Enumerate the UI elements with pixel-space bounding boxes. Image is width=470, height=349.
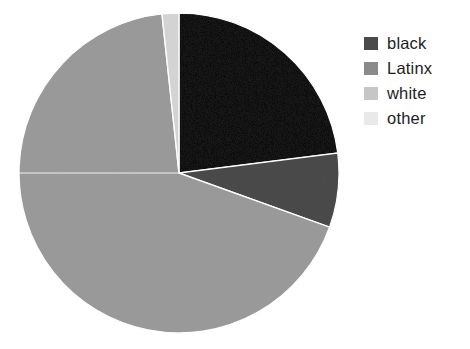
legend-swatch-black [364, 37, 378, 50]
legend-item-black[interactable]: black [364, 31, 468, 56]
legend-label-black: black [387, 35, 427, 52]
legend-swatch-other [364, 112, 378, 125]
legend-item-other[interactable]: other [364, 106, 468, 131]
legend-item-white[interactable]: white [364, 81, 468, 106]
chart-legend: black Latinx white other [364, 31, 468, 131]
pie-chart-svg [0, 0, 352, 349]
legend-label-other: other [387, 110, 426, 127]
pie-chart-figure: black Latinx white other [0, 0, 470, 349]
legend-swatch-latinx [364, 62, 378, 75]
legend-label-latinx: Latinx [387, 60, 432, 77]
legend-item-latinx[interactable]: Latinx [364, 56, 468, 81]
pie-chart-plot-area [0, 0, 352, 349]
legend-label-white: white [387, 85, 427, 102]
legend-swatch-white [364, 87, 378, 100]
pie-slice-black[interactable] [179, 13, 338, 173]
